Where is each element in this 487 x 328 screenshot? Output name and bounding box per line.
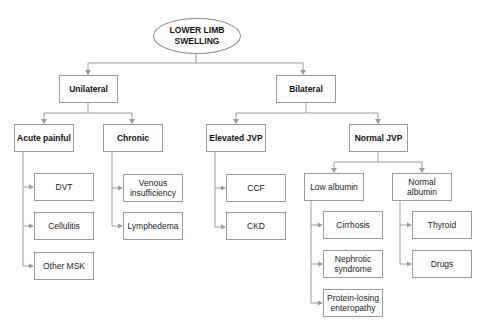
- node-label: Elevated JVP: [209, 133, 262, 144]
- leaf-other-msk: Other MSK: [34, 252, 94, 280]
- leaf-label: Lymphedema: [127, 221, 178, 232]
- leaf-label: Cellulitis: [48, 221, 80, 232]
- node-label: Acute painful: [17, 133, 71, 144]
- leaf-label: Venous insufficiency: [130, 178, 176, 199]
- node-bilateral: Bilateral: [276, 75, 336, 103]
- node-label: Normal JVP: [355, 133, 403, 144]
- leaf-label: Protein-losing enteropathy: [327, 293, 379, 314]
- leaf-label: Other MSK: [43, 261, 85, 272]
- node-elevated-jvp: Elevated JVP: [206, 124, 266, 152]
- leaf-label: DVT: [56, 182, 73, 193]
- node-label: Unilateral: [69, 84, 108, 95]
- leaf-drugs: Drugs: [412, 250, 472, 278]
- leaf-cirrhosis: Cirrhosis: [323, 211, 383, 239]
- leaf-nephrotic-syndrome: Nephrotic syndrome: [323, 250, 383, 278]
- leaf-label: Drugs: [431, 259, 454, 270]
- leaf-label: CCF: [247, 183, 264, 194]
- leaf-dvt: DVT: [34, 173, 94, 201]
- node-chronic: Chronic: [103, 124, 163, 152]
- leaf-cellulitis: Cellulitis: [34, 212, 94, 240]
- node-unilateral: Unilateral: [59, 75, 118, 103]
- leaf-ckd: CKD: [226, 212, 286, 240]
- node-low-albumin: Low albumin: [304, 173, 364, 201]
- root-label: LOWER LIMB SWELLING: [170, 25, 225, 47]
- leaf-ccf: CCF: [226, 174, 286, 202]
- node-normal-jvp: Normal JVP: [349, 124, 408, 152]
- node-label: Low albumin: [310, 182, 358, 193]
- leaf-venous-insufficiency: Venous insufficiency: [123, 174, 183, 202]
- node-label: Chronic: [117, 133, 149, 144]
- leaf-thyroid: Thyroid: [412, 211, 472, 239]
- flowchart-lower-limb-swelling: LOWER LIMB SWELLING Unilateral Bilateral…: [0, 0, 487, 328]
- leaf-label: Thyroid: [428, 220, 456, 231]
- leaf-label: Nephrotic syndrome: [334, 254, 371, 275]
- node-normal-albumin: Normal albumin: [392, 173, 452, 201]
- node-label: Normal albumin: [407, 177, 437, 198]
- leaf-label: Cirrhosis: [336, 220, 370, 231]
- leaf-protein-losing-enteropathy: Protein-losing enteropathy: [323, 289, 383, 317]
- node-acute-painful: Acute painful: [14, 124, 74, 152]
- leaf-lymphedema: Lymphedema: [123, 212, 183, 240]
- root-node-lower-limb-swelling: LOWER LIMB SWELLING: [153, 18, 241, 54]
- leaf-label: CKD: [247, 221, 265, 232]
- node-label: Bilateral: [289, 84, 323, 95]
